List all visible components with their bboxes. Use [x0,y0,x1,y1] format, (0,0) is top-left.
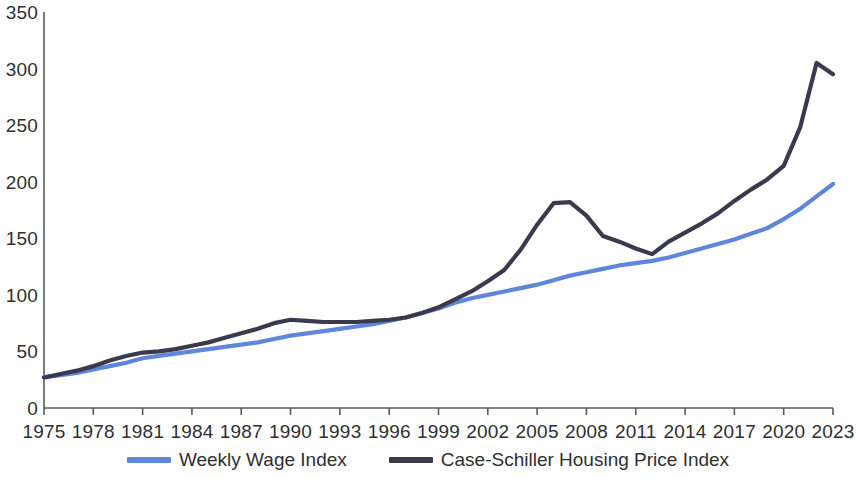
x-axis-tick-label: 1993 [318,422,361,441]
x-axis-tick-label: 2005 [516,422,559,441]
line-chart: 050100150200250300350 197519781981198419… [0,0,856,479]
x-axis-tick-label: 1978 [72,422,115,441]
y-axis-tick-label: 200 [2,173,38,192]
x-axis-tick-label: 2017 [713,422,756,441]
legend-item[interactable]: Weekly Wage Index [127,450,347,469]
chart-series-group [44,63,833,378]
x-axis-tick-label: 2014 [664,422,707,441]
y-axis-tick-label: 150 [2,229,38,248]
series-line-2 [44,63,833,378]
x-axis-tick-label: 1981 [121,422,164,441]
y-axis-tick-label: 350 [2,3,38,22]
y-axis-tick-labels: 050100150200250300350 [0,0,38,420]
chart-legend: Weekly Wage IndexCase-Schiller Housing P… [0,450,856,469]
x-axis-tick-label: 2011 [615,422,657,441]
x-axis-tick-label: 1975 [22,422,65,441]
legend-item[interactable]: Case-Schiller Housing Price Index [389,450,729,469]
x-axis-tick-label: 1990 [269,422,312,441]
chart-plot-area [0,0,856,479]
legend-color-swatch [389,457,433,463]
legend-item-label: Case-Schiller Housing Price Index [441,450,729,469]
y-axis-tick-label: 300 [2,60,38,79]
y-axis-tick-label: 50 [2,342,38,361]
legend-item-label: Weekly Wage Index [179,450,347,469]
legend-color-swatch [127,457,171,463]
x-axis-tick-label: 2008 [565,422,608,441]
x-axis-tick-label: 1999 [417,422,460,441]
x-axis-tick-label: 2023 [811,422,854,441]
x-axis-tick-label: 2002 [466,422,509,441]
y-axis-tick-label: 250 [2,116,38,135]
x-axis-tick-label: 1984 [170,422,213,441]
x-axis-tick-label: 1987 [220,422,263,441]
x-axis-tick-labels: 1975197819811984198719901993199619992002… [0,416,856,444]
x-axis-tick-label: 2020 [762,422,805,441]
x-axis-tick-label: 1996 [368,422,411,441]
y-axis-tick-label: 100 [2,286,38,305]
